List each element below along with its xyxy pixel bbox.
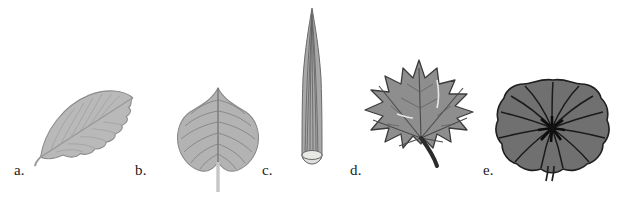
leaf-blade-a bbox=[27, 82, 145, 168]
specimen-label-a: a. bbox=[14, 163, 25, 178]
leaf-shapes-figure: a. b. bbox=[0, 0, 628, 198]
specimen-a-serrate-elliptic-leaf bbox=[26, 88, 144, 170]
specimen-e-orbicular-peltate-leaf bbox=[495, 78, 611, 182]
specimen-label-c: c. bbox=[262, 163, 273, 178]
petiole-a bbox=[33, 157, 43, 166]
specimen-b-cordate-leaf bbox=[176, 84, 260, 194]
specimen-d-palmate-lobed-maple-leaf bbox=[363, 58, 475, 170]
peltate-attachment-point-e bbox=[548, 124, 556, 132]
cut-end-ellipse-c bbox=[302, 151, 322, 160]
specimen-c-needle-linear-leaf bbox=[293, 8, 331, 168]
specimen-label-b: b. bbox=[135, 163, 147, 178]
specimen-label-d: d. bbox=[350, 163, 362, 178]
specimen-label-e: e. bbox=[483, 163, 494, 178]
